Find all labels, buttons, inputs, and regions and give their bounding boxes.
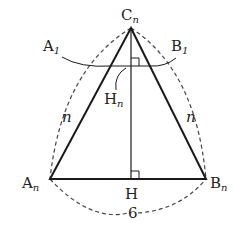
label-h: H xyxy=(125,185,138,203)
right-angle-mark-h xyxy=(131,171,139,179)
label-side-right: n xyxy=(186,108,196,126)
label-an: An xyxy=(21,174,39,193)
label-a1: A1 xyxy=(42,37,60,56)
label-hn: Hn xyxy=(104,90,124,109)
label-cn: Cn xyxy=(121,6,139,25)
label-b1: B1 xyxy=(171,37,188,56)
triangle-diagram: Cn A1 B1 Hn n n An H Bn 6 xyxy=(0,0,234,234)
pointer-a1 xyxy=(62,57,112,66)
pointer-b1 xyxy=(150,58,176,66)
label-side-left: n xyxy=(62,108,72,126)
label-bn: Bn xyxy=(210,174,227,193)
label-base-length: 6 xyxy=(128,204,138,222)
pointer-hn xyxy=(116,68,126,90)
right-angle-mark-hn xyxy=(131,58,139,66)
